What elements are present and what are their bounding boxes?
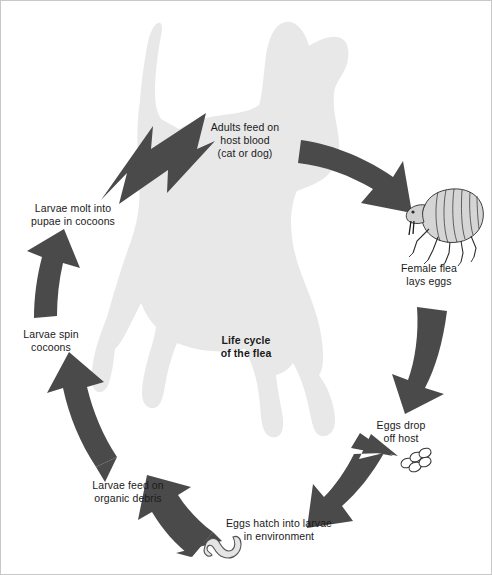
stage-label-female-lays-eggs: Female flea lays eggs bbox=[383, 262, 475, 288]
dog-silhouette bbox=[92, 22, 349, 438]
stage-label-larvae-feed: Larvae feed on organic debris bbox=[73, 479, 183, 505]
flea-eggs-illustration bbox=[400, 446, 433, 473]
flea-life-cycle-diagram: Adults feed on host blood (cat or dog) F… bbox=[0, 0, 492, 575]
stage-label-larvae-molt: Larvae molt into pupae in cocoons bbox=[15, 202, 131, 228]
diagram-title: Life cycle of the flea bbox=[195, 334, 297, 360]
stage-label-eggs-drop: Eggs drop off host bbox=[358, 419, 444, 445]
arrow-to-drop bbox=[392, 307, 447, 414]
arrow-to-hatch bbox=[307, 433, 398, 528]
stage-label-larvae-spin: Larvae spin cocoons bbox=[7, 328, 95, 354]
adult-flea-illustration bbox=[406, 189, 483, 266]
arrow-to-molt bbox=[27, 229, 80, 318]
stage-label-eggs-hatch: Eggs hatch into larvae in environment bbox=[217, 517, 341, 543]
stage-label-adults-feed: Adults feed on host blood (cat or dog) bbox=[189, 121, 301, 160]
